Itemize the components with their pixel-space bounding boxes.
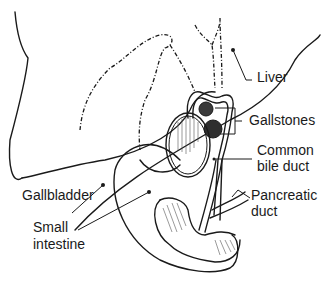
body-outline — [10, 12, 29, 179]
anatomy-diagram: Liver Gallstones Common bile duct Pancre… — [0, 0, 331, 281]
gallbladder-dashed-outline — [80, 35, 172, 150]
pancreatic-leader-line — [232, 190, 250, 198]
label-pancreatic-duct-1: Pancreatic — [251, 188, 317, 203]
pancreatic-duct-inner — [210, 200, 248, 218]
hepatic-duct-right — [220, 18, 222, 88]
label-gallstones: Gallstones — [249, 113, 315, 128]
gallstone-small — [199, 102, 213, 116]
hepatic-duct-outer — [170, 45, 195, 92]
label-common-bile-duct-2: bile duct — [257, 159, 309, 174]
label-gallbladder: Gallbladder — [22, 188, 94, 203]
label-small-intestine-1: Small — [33, 220, 68, 235]
label-small-intestine-2: intestine — [33, 237, 85, 252]
pancreatic-duct — [212, 192, 245, 210]
label-pancreatic-duct-2: duct — [251, 204, 277, 219]
hepatic-duct-branch — [212, 22, 220, 45]
hepatic-duct-left — [195, 25, 215, 88]
label-liver: Liver — [257, 70, 287, 85]
label-common-bile-duct-1: Common — [257, 143, 314, 158]
intestine-lower — [155, 200, 240, 262]
liver-leader-line — [233, 50, 252, 80]
